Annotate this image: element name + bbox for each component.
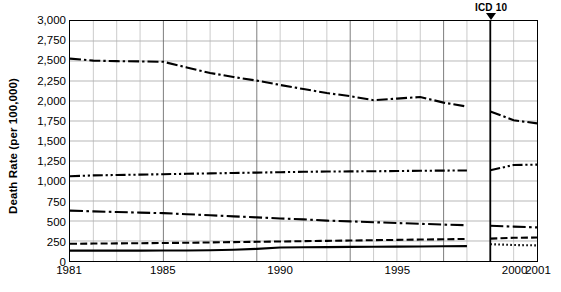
- y-tick-label: 2,750: [37, 34, 66, 46]
- plot-frame: [69, 20, 538, 262]
- x-tick-label: 1985: [150, 264, 176, 276]
- y-tick-label: 2,000: [37, 95, 66, 107]
- plot-area: [69, 20, 538, 262]
- x-axis-ticks: 198119851990199520002001: [69, 264, 538, 286]
- x-tick-label: 1981: [56, 264, 82, 276]
- data-line-series-2: [490, 165, 537, 171]
- x-tick-label: 1990: [267, 264, 293, 276]
- data-line-series-4: [70, 239, 467, 244]
- y-tick-label: 1,500: [37, 135, 66, 147]
- y-tick-label: 1,000: [37, 175, 66, 187]
- y-tick-label: 250: [47, 236, 66, 248]
- x-tick-label: 2001: [525, 264, 551, 276]
- y-tick-label: 750: [47, 196, 66, 208]
- y-tick-label: 3,000: [37, 14, 66, 26]
- icd10-annotation-label: ICD 10: [475, 2, 507, 13]
- x-tick-label: 1995: [385, 264, 411, 276]
- x-tick-label: 2000: [502, 264, 528, 276]
- data-line-series-3: [70, 211, 467, 226]
- y-tick-label: 1,750: [37, 115, 66, 127]
- data-line-series-1: [70, 59, 467, 107]
- y-tick-label: 1,250: [37, 155, 66, 167]
- data-line-series-4: [490, 238, 537, 239]
- data-line-series-5: [70, 246, 467, 250]
- y-tick-label: 500: [47, 216, 66, 228]
- data-line-series-1: [490, 111, 537, 123]
- data-line-series-3: [490, 226, 537, 228]
- y-tick-label: 2,250: [37, 75, 66, 87]
- y-tick-label: 2,500: [37, 54, 66, 66]
- data-series-layer: [70, 21, 537, 261]
- y-axis-ticks: 02505007501,0001,2501,5001,7502,0002,250…: [0, 20, 66, 262]
- chart-figure: Death Rate (per 100,000) 02505007501,000…: [0, 0, 561, 292]
- icd10-arrow-icon: [486, 13, 496, 20]
- data-line-series-6: [490, 244, 537, 245]
- data-line-series-2: [70, 170, 467, 176]
